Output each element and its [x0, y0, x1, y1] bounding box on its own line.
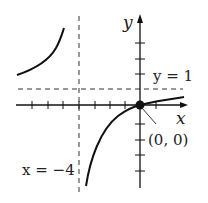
curve-left-branch [17, 28, 64, 75]
y-axis-arrow-icon [137, 14, 143, 23]
origin-point-label: (0, 0) [148, 131, 188, 149]
horizontal-asymptote-label: y = 1 [152, 67, 193, 85]
origin-point [136, 101, 145, 110]
y-axis-label: y [122, 12, 133, 32]
x-axis [16, 101, 188, 109]
function-graph: y x y = 1 x = −4 (0, 0) [0, 0, 208, 203]
x-axis-label: x [176, 108, 186, 128]
vertical-asymptote-label: x = −4 [22, 161, 75, 179]
origin-leader-line [142, 108, 156, 124]
